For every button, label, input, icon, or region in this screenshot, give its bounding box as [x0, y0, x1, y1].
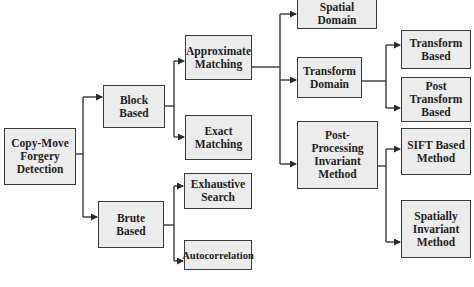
node-copy-move-forgery-detection: Copy-Move Forgery Detection [4, 128, 76, 185]
node-transform-based: Transform Based [401, 30, 471, 69]
node-transform-domain: Transform Domain [297, 57, 362, 98]
node-post-processing-invariant-method: Post-Processing Invariant Method [297, 121, 378, 189]
node-approximate-matching: Approximate Matching [185, 35, 252, 80]
node-exhaustive-search: Exhaustive Search [184, 173, 252, 209]
node-post-transform-based: Post Transform Based [401, 77, 471, 122]
node-sift-based-method: SIFT Based Method [401, 128, 471, 175]
node-autocorrelation: Autocorrelation [184, 240, 252, 270]
node-exact-matching: Exact Matching [185, 115, 252, 160]
node-spatially-invariant-method: Spatially Invariant Method [401, 200, 471, 258]
node-block-based: Block Based [103, 85, 165, 128]
node-brute-based: Brute Based [98, 201, 164, 248]
node-spatial-domain: Spatial Domain [297, 0, 377, 29]
